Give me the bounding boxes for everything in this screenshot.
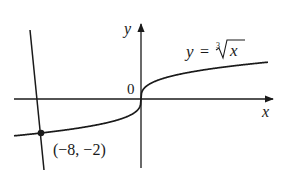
origin-label: 0	[127, 81, 135, 97]
svg-text:x: x	[229, 41, 238, 60]
steep-line	[30, 30, 44, 170]
svg-text:=: =	[200, 43, 209, 60]
x-axis-label: x	[261, 103, 269, 120]
point-label: (−8, −2)	[53, 141, 106, 159]
cube-root-graph: (−8, −2) 0 y x y = 3 x	[0, 0, 287, 179]
y-axis-label: y	[122, 20, 132, 38]
function-label: y = 3 x	[184, 40, 245, 61]
svg-text:y: y	[184, 42, 194, 61]
point-marker	[38, 130, 45, 137]
